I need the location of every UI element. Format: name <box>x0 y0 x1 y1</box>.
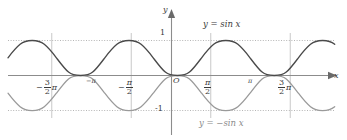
sine-curve-annotation: y = sin x <box>203 20 240 29</box>
x-tick-pi: π <box>286 84 291 92</box>
sine-cosine-plot-figure: y x 1 -1 O − 3 2 π −π − π 2 π 2 π <box>0 0 347 140</box>
x-tick-label-neg-half-pi: − π 2 <box>118 79 133 96</box>
x-tick-numerator: π <box>126 79 133 87</box>
x-tick-denominator: 2 <box>44 87 51 96</box>
x-tick-label-three-halves-pi: 3 2 π <box>278 79 291 96</box>
x-tick-numerator: 3 <box>44 79 51 87</box>
x-tick-denominator: 2 <box>204 87 211 96</box>
y-axis-arrowhead <box>168 9 175 18</box>
y-axis-label: y <box>163 6 168 14</box>
x-tick-fraction: π 2 <box>126 79 133 96</box>
y-tick-label-negative-one: -1 <box>155 105 163 113</box>
plot-canvas <box>0 0 347 140</box>
x-tick-label-pi: π <box>248 78 252 85</box>
y-tick-label-positive-one: 1 <box>160 29 165 37</box>
origin-label: O <box>173 77 180 85</box>
x-tick-sign: − <box>118 84 125 92</box>
x-tick-numerator: π <box>204 79 211 87</box>
x-tick-sign: − <box>36 84 43 92</box>
x-tick-denominator: 2 <box>278 87 285 96</box>
x-tick-fraction: 3 2 <box>278 79 285 96</box>
x-tick-label-neg-pi: −π <box>86 78 96 85</box>
x-tick-fraction: 3 2 <box>44 79 51 96</box>
x-tick-fraction: π 2 <box>204 79 211 96</box>
x-tick-label-neg-three-halves-pi: − 3 2 π <box>36 79 57 96</box>
x-tick-pi: π <box>91 77 95 85</box>
x-tick-numerator: 3 <box>278 79 285 87</box>
negative-sine-curve-annotation: y = −sin x <box>199 119 244 128</box>
x-tick-pi: π <box>52 84 57 92</box>
x-tick-pi: π <box>248 77 252 85</box>
x-tick-denominator: 2 <box>126 87 133 96</box>
x-tick-label-half-pi: π 2 <box>204 79 211 96</box>
x-axis-label: x <box>334 72 339 80</box>
